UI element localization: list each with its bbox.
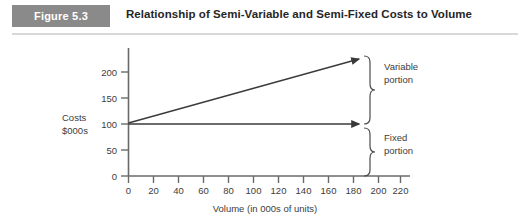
x-tick-label-80: 80: [223, 185, 234, 196]
variable-portion-label-line1: Variable: [384, 61, 418, 72]
figure-number-label: Figure 5.3: [34, 10, 88, 22]
chart-container: 0 50 100 150 200 Costs $000s 0 20 40 60 …: [0, 36, 530, 221]
y-tick-label-0: 0: [112, 171, 117, 182]
header-divider: [12, 33, 518, 35]
variable-portion-label-line2: portion: [384, 74, 413, 85]
figure-number-badge: Figure 5.3: [12, 5, 110, 27]
y-tick-label-50: 50: [106, 145, 117, 156]
x-tick-label-100: 100: [246, 185, 262, 196]
x-axis-ticks: [129, 176, 401, 183]
y-tick-label-100: 100: [101, 119, 117, 130]
figure-title: Relationship of Semi-Variable and Semi-F…: [126, 8, 472, 20]
x-tick-label-120: 120: [271, 185, 287, 196]
x-tick-label-220: 220: [393, 185, 409, 196]
variable-portion-brace: [364, 56, 375, 124]
x-tick-label-180: 180: [346, 185, 362, 196]
figure-header: Figure 5.3 Relationship of Semi-Variable…: [0, 0, 530, 33]
y-tick-label-150: 150: [101, 93, 117, 104]
total-cost-line: [129, 59, 360, 123]
fixed-portion-brace: [364, 128, 375, 176]
x-tick-label-160: 160: [321, 185, 337, 196]
x-tick-label-20: 20: [148, 185, 159, 196]
x-axis-label: Volume (in 000s of units): [213, 203, 318, 214]
cost-volume-chart: 0 50 100 150 200 Costs $000s 0 20 40 60 …: [0, 36, 530, 221]
y-axis-label-line1: Costs: [62, 112, 87, 123]
y-tick-label-200: 200: [101, 67, 117, 78]
fixed-portion-label-line1: Fixed: [384, 132, 407, 143]
fixed-portion-label-line2: portion: [384, 145, 413, 156]
x-tick-label-0: 0: [126, 185, 131, 196]
x-tick-label-200: 200: [371, 185, 387, 196]
x-tick-label-40: 40: [173, 185, 184, 196]
y-axis-label-line2: $000s: [62, 125, 88, 136]
y-axis-ticks: [121, 72, 129, 176]
x-tick-label-140: 140: [296, 185, 312, 196]
x-tick-label-60: 60: [198, 185, 209, 196]
